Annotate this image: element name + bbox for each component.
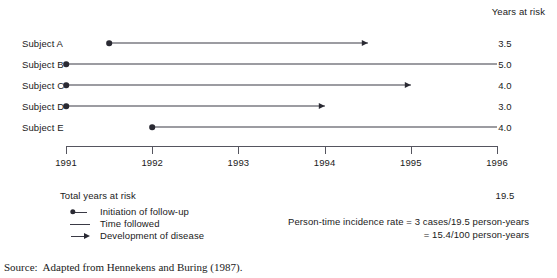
subject-row: Subject D3.0 [0, 97, 557, 115]
subject-years-at-risk-value: 4.0 [475, 122, 535, 133]
axis-tick [66, 146, 67, 154]
subject-years-at-risk-value: 5.0 [475, 59, 535, 70]
axis-tick-label: 1991 [55, 157, 77, 168]
axis-tick [238, 146, 239, 154]
source-text: Adapted from Hennekens and Buring (1987)… [43, 261, 243, 273]
subject-row: Subject E4.0 [0, 118, 557, 136]
disease-arrowhead [405, 82, 411, 88]
axis-tick-label: 1996 [486, 157, 508, 168]
subject-years-at-risk-value: 3.5 [475, 38, 535, 49]
source-label: Source: [4, 261, 38, 273]
initiation-marker-icon [68, 206, 96, 218]
chart-canvas: Years at risk Subject A3.5Subject B5.0Su… [0, 0, 557, 278]
subject-row: Subject C4.0 [0, 76, 557, 94]
axis-tick [325, 146, 326, 154]
follow-up-track [0, 118, 557, 136]
axis-tick [497, 146, 498, 154]
initiation-dot [63, 82, 69, 88]
legend-item-time-followed: Time followed [68, 218, 204, 230]
incidence-rate-line-2: = 15.4/100 person-years [288, 228, 529, 241]
follow-up-track [0, 76, 557, 94]
axis-tick-label: 1992 [141, 157, 163, 168]
total-years-at-risk-value: 19.5 [475, 190, 535, 201]
follow-up-line [66, 64, 497, 65]
follow-up-track [0, 97, 557, 115]
disease-arrow-icon [68, 230, 96, 242]
axis-tick-label: 1995 [400, 157, 422, 168]
total-years-at-risk-label: Total years at risk [60, 190, 136, 201]
disease-arrowhead [361, 40, 367, 46]
follow-up-track [0, 55, 557, 73]
subject-years-at-risk-value: 4.0 [475, 80, 535, 91]
follow-up-track [0, 34, 557, 52]
follow-up-line [66, 106, 325, 107]
legend-item-initiation: Initiation of follow-up [68, 206, 204, 218]
initiation-dot [106, 40, 112, 46]
initiation-dot [63, 103, 69, 109]
time-followed-line-icon [68, 218, 96, 230]
initiation-dot [63, 61, 69, 67]
chart-legend: Initiation of follow-up Time followed De… [68, 206, 204, 242]
incidence-rate-line-1: Person-time incidence rate = 3 cases/19.… [288, 215, 529, 228]
subject-years-at-risk-value: 3.0 [475, 101, 535, 112]
subject-row: Subject A3.5 [0, 34, 557, 52]
follow-up-line [66, 85, 411, 86]
legend-label-development: Development of disease [100, 230, 204, 241]
axis-tick-label: 1993 [228, 157, 250, 168]
total-years-at-risk-row: Total years at risk 19.5 [0, 190, 557, 202]
source-note: Source:Adapted from Hennekens and Buring… [4, 261, 242, 273]
years-at-risk-column-header: Years at risk [492, 6, 545, 17]
axis-tick-label: 1994 [314, 157, 336, 168]
follow-up-line [109, 43, 368, 44]
incidence-rate-annotation: Person-time incidence rate = 3 cases/19.… [288, 215, 529, 241]
legend-item-development: Development of disease [68, 230, 204, 242]
follow-up-line [152, 127, 497, 128]
legend-label-time-followed: Time followed [100, 218, 160, 229]
initiation-dot [149, 124, 155, 130]
legend-label-initiation: Initiation of follow-up [100, 206, 189, 217]
subject-row: Subject B5.0 [0, 55, 557, 73]
axis-tick [411, 146, 412, 154]
disease-arrowhead [318, 103, 324, 109]
axis-line [66, 146, 497, 147]
axis-tick [152, 146, 153, 154]
